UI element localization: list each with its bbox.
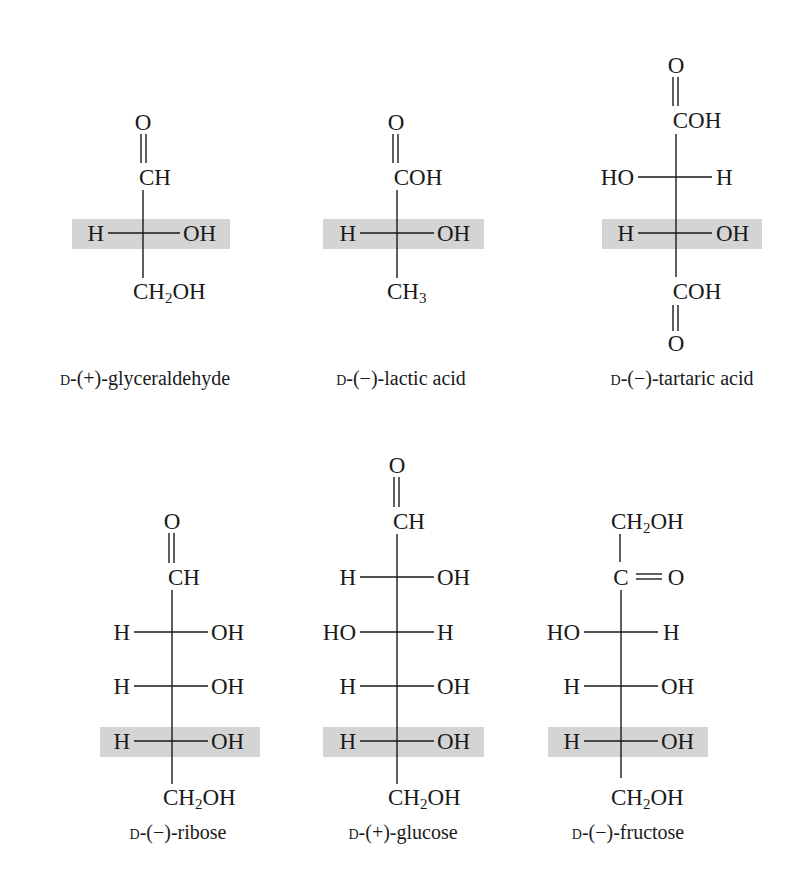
carbonyl-oxygen: O [164,510,181,533]
fischer-projection-figure: O CH H OH CH2OH D-(+)-glyceraldehyde O C… [0,0,796,894]
bottom-group: CH2OH [611,786,684,809]
row-2-right: OH [716,222,749,245]
row-1-left: H [339,222,356,245]
top-group: CH [139,166,171,189]
top-group: CH [393,510,425,533]
bottom-group: CH2OH [133,280,206,303]
molecule-label: D-(−)-tartaric acid [611,368,754,388]
row-2-left: H [617,222,634,245]
carbonyl-oxygen: O [668,566,685,589]
row-2-right: H [437,621,454,644]
row-3-left: H [113,730,130,753]
molecule-label: D-(+)-glucose [348,822,457,842]
molecule-label: D-(−)-lactic acid [336,368,466,388]
row-3-right: OH [437,675,470,698]
row-3-right: OH [661,730,694,753]
row-1-left: H [87,222,104,245]
top-group: CH [168,566,200,589]
row-1-left: HO [601,166,634,189]
row-1-right: OH [183,222,216,245]
row-2-left: HO [323,621,356,644]
row-1-left: H [113,621,130,644]
molecule-label: D-(−)-ribose [130,822,227,842]
row-1-right: H [716,166,733,189]
row-4-left: H [339,730,356,753]
carbonyl-oxygen: O [389,454,406,477]
row-3-right: OH [211,730,244,753]
row-1-right: OH [437,566,470,589]
top-group: COH [673,109,722,132]
row-1-left: HO [547,621,580,644]
top-group: COH [394,166,443,189]
row-2-right: OH [661,675,694,698]
row-2-right: OH [211,675,244,698]
carbonyl-oxygen: O [388,111,405,134]
row-3-left: H [339,675,356,698]
carbonyl-oxygen: O [135,111,152,134]
bottom-carbonyl-oxygen: O [668,332,685,355]
top-carbonyl-oxygen: O [668,54,685,77]
row-1-left: H [339,566,356,589]
top-group: CH2OH [611,510,684,533]
molecule-label: D-(−)-fructose [572,822,684,842]
row-1-right: OH [437,222,470,245]
bottom-group: COH [673,280,722,303]
row-1-right: OH [211,621,244,644]
row-3-left: H [563,730,580,753]
bottom-group: CH2OH [163,786,236,809]
row-1-right: H [663,621,680,644]
row-2-left: H [563,675,580,698]
row-2-left: H [113,675,130,698]
carbonyl-carbon: C [613,566,628,589]
bottom-group: CH3 [387,280,426,303]
bottom-group: CH2OH [388,786,461,809]
molecule-label: D-(+)-glyceraldehyde [60,368,230,388]
row-4-right: OH [437,730,470,753]
